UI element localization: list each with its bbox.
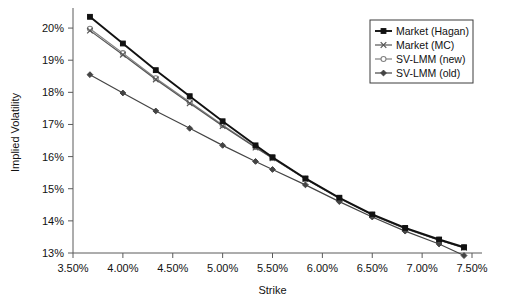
y-tick-label: 15% (42, 183, 64, 195)
legend-label: SV-LMM (new) (396, 53, 465, 65)
x-tick-label: 4.50% (157, 262, 188, 274)
data-point (120, 90, 126, 96)
data-point (87, 72, 93, 78)
y-tick-label: 14% (42, 215, 64, 227)
data-point (461, 253, 467, 259)
data-point (88, 14, 93, 19)
data-point (253, 143, 258, 148)
y-tick-label: 13% (42, 247, 64, 259)
y-tick-label: 16% (42, 151, 64, 163)
x-tick-label: 6.00% (307, 262, 338, 274)
data-point (337, 195, 342, 200)
data-point (220, 142, 226, 148)
chart-legend: Market (Hagan)Market (MC)SV-LMM (new)SV-… (370, 20, 473, 83)
data-point (437, 237, 442, 242)
x-tick-label: 5.50% (257, 262, 288, 274)
data-point (220, 119, 225, 124)
data-point (153, 108, 159, 114)
implied-volatility-chart: 13%14%15%16%17%18%19%20%3.50%4.00%4.50%5… (0, 0, 510, 303)
data-point (381, 29, 386, 34)
x-tick-label: 4.00% (107, 262, 138, 274)
legend-label: Market (Hagan) (396, 25, 469, 37)
x-tick-label: 7.50% (456, 262, 487, 274)
data-point (187, 94, 192, 99)
legend-label: Market (MC) (396, 39, 454, 51)
y-axis-title: Implied Volatility (9, 93, 21, 172)
data-point (253, 159, 259, 165)
x-tick-label: 3.50% (57, 262, 88, 274)
chart-canvas: 13%14%15%16%17%18%19%20%3.50%4.00%4.50%5… (0, 0, 510, 303)
data-point (462, 245, 467, 250)
x-tick-label: 5.00% (207, 262, 238, 274)
data-point (120, 41, 125, 46)
legend-label: SV-LMM (old) (396, 67, 460, 79)
data-point (403, 226, 408, 231)
y-tick-label: 19% (42, 54, 64, 66)
x-tick-label: 7.00% (407, 262, 438, 274)
data-point (187, 125, 193, 131)
data-point (303, 182, 309, 188)
data-point (370, 212, 375, 217)
y-tick-label: 20% (42, 22, 64, 34)
data-point (381, 57, 386, 62)
y-tick-label: 17% (42, 118, 64, 130)
x-axis-title: Strike (258, 284, 286, 296)
data-point (303, 176, 308, 181)
y-tick-label: 18% (42, 86, 64, 98)
data-point (270, 155, 275, 160)
data-point (270, 167, 276, 173)
x-tick-label: 6.50% (357, 262, 388, 274)
data-point (153, 68, 158, 73)
